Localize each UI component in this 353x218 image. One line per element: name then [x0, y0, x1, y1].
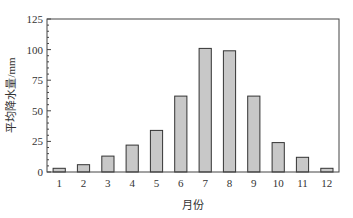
bar-month-4 — [126, 145, 138, 172]
x-axis-label: 月份 — [182, 199, 204, 211]
x-tick-label: 4 — [129, 177, 135, 189]
bar-month-5 — [150, 130, 162, 172]
x-tick-label: 3 — [105, 177, 111, 189]
plot-frame — [47, 19, 339, 172]
y-tick-label: 125 — [27, 13, 44, 25]
bar-month-8 — [223, 51, 235, 172]
bar-month-9 — [248, 96, 260, 172]
x-tick-label: 5 — [154, 177, 160, 189]
x-tick-label: 8 — [227, 177, 233, 189]
bar-month-7 — [199, 48, 211, 172]
bar-month-11 — [296, 157, 308, 172]
x-tick-label: 1 — [56, 177, 62, 189]
bar-month-2 — [77, 165, 89, 172]
y-tick-label: 100 — [27, 44, 44, 56]
y-tick-label: 0 — [38, 166, 44, 178]
x-tick-label: 10 — [273, 177, 285, 189]
precipitation-bar-chart: 0255075100125 123456789101112 平均降水量/mm 月… — [0, 0, 353, 218]
x-tick-label: 12 — [321, 177, 332, 189]
y-axis-label: 平均降水量/mm — [4, 57, 17, 133]
bars-group — [53, 48, 333, 172]
x-tick-label: 11 — [297, 177, 308, 189]
bar-month-6 — [175, 96, 187, 172]
x-axis: 123456789101112 — [56, 177, 332, 189]
bar-month-10 — [272, 143, 284, 172]
y-tick-label: 50 — [32, 105, 44, 117]
bar-month-12 — [321, 168, 333, 172]
y-tick-label: 25 — [32, 135, 44, 147]
x-tick-label: 7 — [202, 177, 208, 189]
y-tick-label: 75 — [32, 74, 44, 86]
bar-month-3 — [102, 156, 114, 172]
bar-month-1 — [53, 168, 65, 172]
x-tick-label: 9 — [251, 177, 257, 189]
x-tick-label: 2 — [81, 177, 87, 189]
x-tick-label: 6 — [178, 177, 184, 189]
